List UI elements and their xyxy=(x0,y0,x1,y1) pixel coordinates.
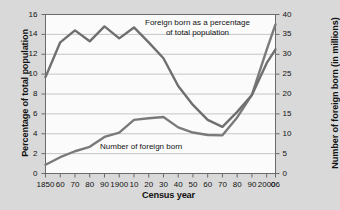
y-axis-left-ticks xyxy=(42,15,46,174)
y-axis-left-tick-label: 16 xyxy=(22,10,38,19)
x-axis-tick-label: 60 xyxy=(56,180,65,189)
x-axis-tick-label: 50 xyxy=(188,180,197,189)
y-axis-right-tick-label: 35 xyxy=(283,29,299,38)
percentage-series-annotation: Foreign born as a percentage of total po… xyxy=(145,18,250,38)
x-axis-tick-label: 70 xyxy=(71,180,80,189)
y-axis-right-tick-label: 15 xyxy=(283,109,299,118)
x-axis-tick-label: 06 xyxy=(271,180,280,189)
x-axis-tick-label: 40 xyxy=(174,180,183,189)
x-axis-tick-label: 70 xyxy=(218,180,227,189)
y-axis-left-tick-label: 0 xyxy=(22,169,38,178)
y-axis-right-tick-label: 20 xyxy=(283,89,299,98)
y-axis-right-tick-label: 5 xyxy=(283,149,299,158)
number-series-annotation-line1: Number of foreign born xyxy=(100,142,182,152)
y-axis-right-ticks xyxy=(276,15,280,174)
y-axis-left-tick-label: 2 xyxy=(22,149,38,158)
y-axis-right-tick-label: 25 xyxy=(283,69,299,78)
number-series-annotation: Number of foreign born xyxy=(100,142,182,152)
y-axis-left-tick-label: 6 xyxy=(22,109,38,118)
x-axis-tick-label: 30 xyxy=(159,180,168,189)
y-axis-right-tick-label: 30 xyxy=(283,49,299,58)
x-axis-tick-label: 1850 xyxy=(37,180,55,189)
x-axis-tick-label: 1900 xyxy=(110,180,128,189)
y-axis-right-tick-label: 10 xyxy=(283,129,299,138)
y-axis-left-tick-label: 10 xyxy=(22,69,38,78)
x-axis-tick-label: 60 xyxy=(203,180,212,189)
x-axis-tick-label: 80 xyxy=(233,180,242,189)
y-axis-left-tick-label: 14 xyxy=(22,29,38,38)
y-axis-right-tick-label: 0 xyxy=(283,169,299,178)
x-axis-tick-label: 10 xyxy=(130,180,139,189)
x-axis-tick-label: 80 xyxy=(85,180,94,189)
x-axis-ticks xyxy=(46,174,276,178)
x-axis-tick-label: 90 xyxy=(100,180,109,189)
percentage-series-annotation-line1: Foreign born as a percentage xyxy=(145,18,250,28)
x-axis-tick-label: 90 xyxy=(247,180,256,189)
y-axis-left-tick-label: 8 xyxy=(22,89,38,98)
percentage-series-annotation-line2: of total population xyxy=(145,28,250,38)
y-axis-right-tick-label: 40 xyxy=(283,10,299,19)
y-axis-left-tick-label: 12 xyxy=(22,49,38,58)
y-axis-left-tick-label: 4 xyxy=(22,129,38,138)
x-axis-tick-label: 20 xyxy=(144,180,153,189)
